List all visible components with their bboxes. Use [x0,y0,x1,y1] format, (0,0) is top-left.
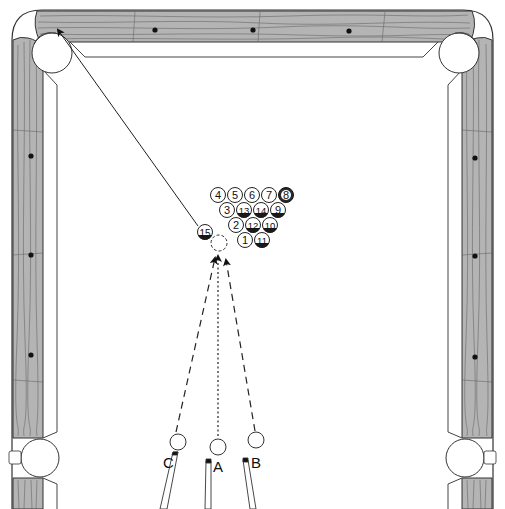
ball-11: 11 [255,233,270,248]
svg-text:2: 2 [233,219,239,231]
cue-ball-a [210,439,226,455]
aim-lines [176,256,255,436]
svg-text:11: 11 [257,235,267,246]
ball-4: 4 [211,188,226,203]
cue-ball-c [170,434,186,450]
pocket-right-side [446,439,496,477]
ball-3: 3 [220,203,235,218]
ball-5: 5 [228,188,243,203]
svg-text:15: 15 [199,228,211,239]
pocket-top-left [32,32,72,73]
cue-stick-a [205,459,211,509]
label-a: A [213,458,223,475]
ball-12: 12 [246,218,261,233]
svg-text:8: 8 [283,189,289,201]
shot-line-to-corner-pocket [58,30,198,226]
label-b: B [251,454,261,471]
ball-9: 9 [271,203,286,218]
label-c: C [163,454,174,471]
rack: 4 5 6 7 8 3 13 14 9 2 12 10 1 11 [211,188,294,248]
svg-text:9: 9 [275,204,281,216]
left-rail [13,37,43,509]
ghost-ball [211,235,227,251]
ball-1: 1 [238,233,253,248]
ball-7: 7 [262,188,277,203]
svg-text:3: 3 [224,204,230,216]
svg-text:10: 10 [265,220,276,231]
cue-ball-b [248,432,264,448]
ball-15: 15 [198,225,213,240]
svg-text:1: 1 [242,234,248,246]
ball-10: 10 [263,218,278,233]
svg-text:6: 6 [249,189,255,201]
pool-table-diagram: 15 4 5 6 7 8 3 13 14 9 2 12 10 1 11 C [0,0,505,509]
ball-13: 13 [237,203,252,218]
svg-text:7: 7 [266,189,272,201]
right-rail [462,37,492,509]
ball-8: 8 [279,188,294,203]
svg-text:13: 13 [239,205,250,216]
pocket-top-right [439,32,479,73]
ball-14: 14 [254,203,269,218]
ball-6: 6 [245,188,260,203]
svg-text:4: 4 [215,189,221,201]
top-rail [35,11,474,42]
svg-text:14: 14 [256,205,267,216]
svg-text:12: 12 [248,220,259,231]
pocket-left-side [9,439,59,477]
ball-2: 2 [229,218,244,233]
svg-text:5: 5 [232,189,238,201]
